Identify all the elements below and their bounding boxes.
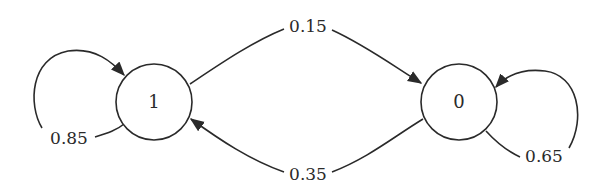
edge-label-1-to-0: 0.15: [289, 16, 327, 36]
node-0: 0: [421, 64, 497, 140]
edge-label-0-to-0: 0.65: [525, 146, 563, 166]
edge-0-to-1-head: [191, 119, 284, 172]
markov-chain-diagram: 1 0 0.85 0.15 0.35 0.65: [0, 0, 612, 191]
node-0-label: 0: [453, 91, 464, 112]
edge-label-0-to-1: 0.35: [289, 164, 327, 184]
edge-1-to-0-head: [332, 30, 421, 83]
edge-0-to-0-tail: [486, 131, 520, 157]
edge-0-to-1: [332, 119, 423, 172]
edge-label-1-to-1: 0.85: [50, 128, 88, 148]
edge-1-to-1-tail: [95, 124, 124, 137]
edge-1-to-0: [190, 29, 284, 84]
edge-1-to-1: [34, 50, 124, 128]
node-1-label: 1: [148, 91, 159, 112]
edge-0-to-0: [496, 70, 578, 148]
node-1: 1: [116, 64, 192, 140]
